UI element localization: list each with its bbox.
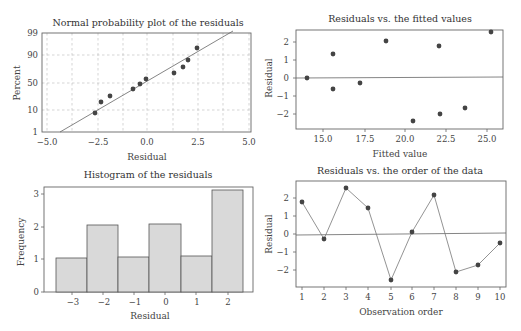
svg-text:3: 3: [34, 189, 39, 199]
svg-text:4: 4: [365, 292, 370, 302]
hist-bar: [56, 258, 87, 292]
residuals-vs-order-plot: Residuals vs. the order of the data 2 1 …: [264, 165, 506, 317]
svg-text:2: 2: [34, 222, 39, 232]
svg-text:1: 1: [33, 127, 38, 137]
npp-y-label: Percent: [12, 65, 22, 100]
svg-text:0: 0: [284, 73, 289, 83]
npp-x-label: Residual: [127, 152, 167, 162]
order-zero-line: [296, 233, 506, 235]
fitted-plot-frame: [296, 30, 503, 129]
svg-text:0.0: 0.0: [140, 137, 154, 147]
svg-text:25.0: 25.0: [478, 134, 497, 144]
svg-text:7: 7: [431, 292, 436, 302]
hist-bar: [118, 257, 149, 292]
svg-text:5: 5: [388, 292, 393, 302]
svg-text:−1: −1: [276, 91, 289, 101]
hist-bar: [212, 190, 243, 292]
svg-text:2.5: 2.5: [191, 137, 205, 147]
svg-text:10: 10: [27, 105, 38, 115]
svg-text:6: 6: [409, 292, 414, 302]
residual-plots-figure: Normal probability plot of the residuals: [0, 0, 521, 331]
svg-text:2: 2: [321, 292, 326, 302]
npp-points: [93, 46, 200, 116]
svg-text:1: 1: [194, 297, 199, 307]
fitted-title: Residuals vs. the fitted values: [328, 13, 472, 24]
svg-text:2: 2: [284, 37, 289, 47]
npp-fit-line: [60, 31, 233, 132]
svg-text:0: 0: [34, 287, 39, 297]
svg-text:1: 1: [34, 254, 39, 264]
svg-text:1: 1: [284, 211, 289, 221]
svg-text:−2: −2: [276, 265, 289, 275]
hist-y-label: Frequency: [16, 217, 26, 267]
svg-text:5.0: 5.0: [242, 137, 256, 147]
hist-bar: [149, 224, 181, 292]
npp-plot-frame: [42, 33, 251, 132]
svg-text:22.5: 22.5: [437, 134, 456, 144]
hist-bars: [56, 190, 243, 292]
npp-x-axis: −5.0 −2.5 0.0 2.5 5.0: [37, 137, 256, 147]
svg-text:1: 1: [284, 55, 289, 65]
fitted-zero-line: [296, 77, 503, 78]
svg-text:0: 0: [284, 229, 289, 239]
npp-grid: [42, 33, 251, 132]
order-x-axis: 1 2 3 4 5 6 7 8 9 10: [299, 287, 505, 302]
svg-text:−2.5: −2.5: [88, 137, 109, 147]
svg-text:10: 10: [495, 292, 506, 302]
histogram-plot: Histogram of the residuals 3 2 1 0: [16, 169, 253, 321]
hist-bar: [181, 256, 212, 292]
svg-text:50: 50: [27, 78, 38, 88]
fitted-points: [305, 30, 494, 124]
svg-text:−3: −3: [67, 297, 80, 307]
svg-text:99: 99: [27, 28, 38, 38]
svg-text:9: 9: [475, 292, 480, 302]
npp-title: Normal probability plot of the residuals: [52, 17, 243, 28]
order-title: Residuals vs. the order of the data: [317, 165, 483, 176]
fitted-x-label: Fitted value: [373, 149, 428, 159]
svg-text:0: 0: [163, 297, 168, 307]
hist-x-label: Residual: [130, 311, 170, 321]
hist-x-axis: −3 −2 −1 0 1 2: [67, 292, 231, 307]
fitted-y-axis: 2 1 0 −1 −2: [276, 37, 296, 119]
svg-text:1: 1: [299, 292, 304, 302]
hist-y-axis: 3 2 1 0: [34, 189, 44, 297]
fitted-x-axis: 15.0 17.5 20.0 22.5 25.0: [314, 129, 497, 144]
hist-title: Histogram of the residuals: [84, 169, 213, 180]
npp-y-axis: 99 90 50 10 1: [27, 28, 38, 137]
svg-text:−1: −1: [276, 247, 289, 257]
svg-text:90: 90: [27, 50, 38, 60]
svg-text:17.5: 17.5: [356, 134, 375, 144]
svg-text:2: 2: [225, 297, 230, 307]
normal-probability-plot: Normal probability plot of the residuals: [12, 17, 256, 162]
hist-bar: [87, 225, 118, 292]
svg-text:−2: −2: [276, 109, 289, 119]
svg-text:20.0: 20.0: [396, 134, 415, 144]
svg-text:−1: −1: [129, 297, 142, 307]
svg-text:−2: −2: [98, 297, 111, 307]
residuals-vs-fitted-plot: Residuals vs. the fitted values 2 1 0 −1: [264, 13, 503, 159]
svg-text:2: 2: [284, 193, 289, 203]
order-y-axis: 2 1 0 −1 −2: [276, 193, 296, 275]
svg-text:8: 8: [453, 292, 458, 302]
order-y-label: Residual: [264, 214, 274, 254]
svg-text:15.0: 15.0: [314, 134, 333, 144]
svg-text:3: 3: [343, 292, 348, 302]
order-x-label: Observation order: [359, 307, 443, 317]
fitted-y-label: Residual: [264, 58, 274, 98]
svg-text:−5.0: −5.0: [37, 137, 58, 147]
